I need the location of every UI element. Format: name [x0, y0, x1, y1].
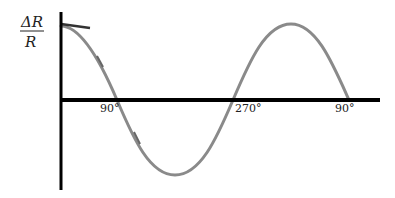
y-axis-label: ΔR R — [20, 13, 44, 51]
x-tick-label: 90° — [335, 102, 355, 115]
y-label-numerator: ΔR — [20, 13, 43, 31]
y-label-denominator: R — [24, 33, 36, 51]
x-tick-label: 270° — [235, 102, 262, 115]
diagram-canvas: ΔR R 90° 270° 90° — [0, 0, 395, 198]
x-tick-label: 90° — [100, 102, 120, 115]
